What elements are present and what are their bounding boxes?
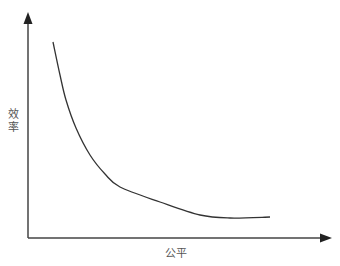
efficiency-curve [53,42,270,218]
y-axis-label: 效 率 [6,108,20,134]
chart-canvas [0,0,340,266]
x-axis-label: 公平 [165,244,187,260]
y-label-char: 效 [6,108,20,121]
y-label-char: 率 [6,121,20,134]
